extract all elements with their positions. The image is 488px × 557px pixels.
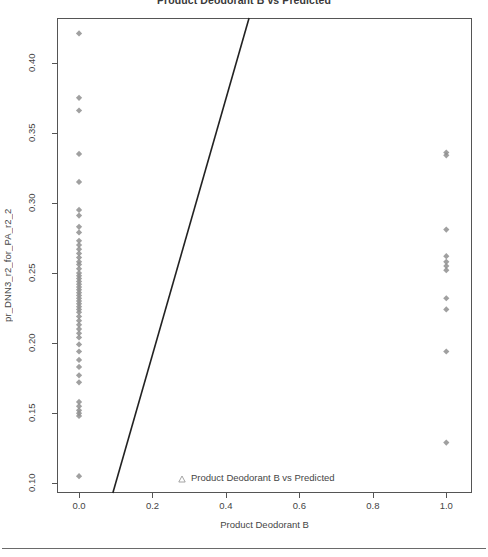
x-tick-label: 0.4 xyxy=(206,500,246,511)
chart-title: Product Deodorant B vs Predicted xyxy=(0,0,488,6)
y-tick-mark xyxy=(52,133,57,134)
x-tick-label: 0.6 xyxy=(279,500,319,511)
y-tick-mark xyxy=(52,343,57,344)
y-tick-mark xyxy=(52,63,57,64)
x-tick-mark xyxy=(226,493,227,498)
y-tick-mark xyxy=(52,483,57,484)
y-tick-label: 0.20 xyxy=(26,327,37,359)
plot-area-frame xyxy=(57,18,472,493)
x-tick-mark xyxy=(79,493,80,498)
y-tick-mark xyxy=(52,413,57,414)
scatter-plot-figure: Product Deodorant B vs Predicted pr_DNN3… xyxy=(0,0,488,557)
y-tick-label: 0.35 xyxy=(26,117,37,149)
x-tick-mark xyxy=(152,493,153,498)
legend: Product Deodorant B vs Predicted xyxy=(178,472,335,483)
x-tick-mark xyxy=(373,493,374,498)
footer-divider xyxy=(2,548,486,549)
x-tick-label: 0.0 xyxy=(59,500,99,511)
y-tick-label: 0.40 xyxy=(26,47,37,79)
y-tick-mark xyxy=(52,273,57,274)
y-axis-title: pr_DNN3_r2_for_PA_r2_2 xyxy=(2,175,20,355)
y-tick-label: 0.25 xyxy=(26,257,37,289)
x-tick-label: 1.0 xyxy=(426,500,466,511)
y-tick-label: 0.30 xyxy=(26,187,37,219)
x-axis-title: Product Deodorant B xyxy=(57,519,472,530)
legend-triangle-icon xyxy=(178,474,186,482)
x-tick-mark xyxy=(446,493,447,498)
y-tick-label: 0.15 xyxy=(26,397,37,429)
legend-label: Product Deodorant B vs Predicted xyxy=(191,472,335,483)
x-tick-mark xyxy=(299,493,300,498)
x-tick-label: 0.2 xyxy=(132,500,172,511)
x-tick-label: 0.8 xyxy=(353,500,393,511)
y-tick-mark xyxy=(52,203,57,204)
y-tick-label: 0.10 xyxy=(26,467,37,499)
